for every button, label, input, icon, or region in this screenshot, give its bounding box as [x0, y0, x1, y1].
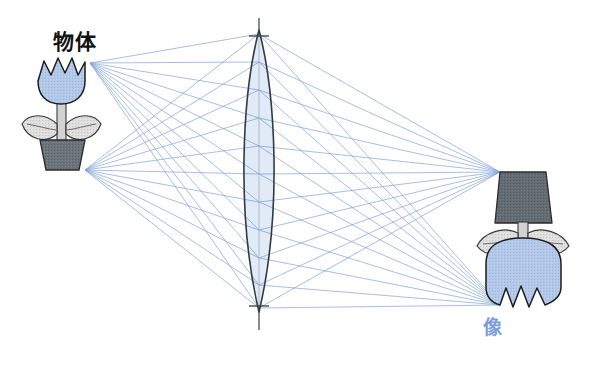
image-flower-inverted [477, 172, 569, 307]
object-leaf-right [66, 116, 101, 140]
image-pot [495, 172, 552, 223]
optics-lens-diagram: 物体 像 [0, 0, 592, 366]
image-label: 像 [483, 318, 503, 337]
object-flower [22, 58, 101, 170]
image-bloom [486, 238, 561, 307]
object-label: 物体 [53, 32, 97, 53]
object-bloom [38, 58, 85, 104]
object-leaf-left [22, 116, 57, 140]
ray-bundle-from-object-top [90, 34, 500, 308]
ray-bundle-from-object-base [85, 34, 500, 308]
ray-diagram-canvas [0, 0, 592, 366]
object-pot [40, 140, 85, 170]
